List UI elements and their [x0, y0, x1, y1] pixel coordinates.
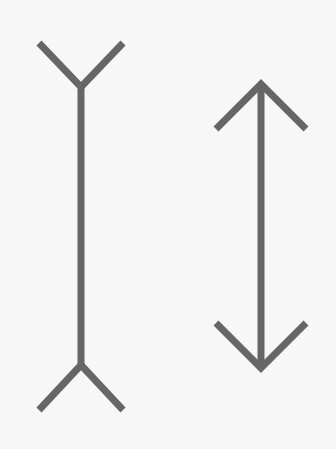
diagram-svg [0, 0, 336, 449]
muller-lyer-diagram [0, 0, 336, 449]
left-bottom-fin-right [81, 365, 123, 410]
left-top-fin-left [39, 43, 81, 87]
right-line-with-arrowheads [216, 84, 306, 368]
left-bottom-fin-left [39, 365, 81, 410]
left-line-with-outward-fins [39, 43, 123, 410]
left-top-fin-right [81, 43, 123, 87]
